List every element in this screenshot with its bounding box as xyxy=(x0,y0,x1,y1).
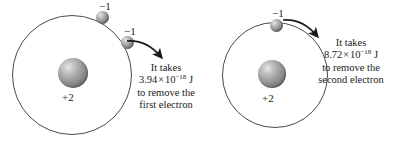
caption-left-times: × xyxy=(157,74,165,85)
caption-right-line-2: 8.72×10−18 J xyxy=(305,49,397,61)
caption-left-exponent: −18 xyxy=(175,73,186,81)
caption-right-times: × xyxy=(342,49,350,60)
caption-right-line-4: second electron xyxy=(305,74,397,86)
electron-sphere-left-1 xyxy=(96,11,109,24)
electron-charge-label-left-1: −1 xyxy=(99,1,111,12)
nucleus-charge-label-left: +2 xyxy=(62,92,74,103)
caption-right-exponent: −18 xyxy=(360,48,371,56)
caption-left: It takes 3.94×10−18 J to remove the firs… xyxy=(131,62,201,112)
caption-right: It takes 8.72×10−18 J to remove the seco… xyxy=(305,37,397,87)
nucleus-sphere-left xyxy=(58,58,88,88)
caption-left-base: 10 xyxy=(165,74,176,85)
nucleus-charge-label-right: +2 xyxy=(262,93,274,104)
electron-charge-label-left-2: −1 xyxy=(124,26,136,37)
caption-right-value: 8.72 xyxy=(324,49,342,60)
caption-right-base: 10 xyxy=(350,49,361,60)
caption-left-value: 3.94 xyxy=(139,74,157,85)
caption-left-line-1: It takes xyxy=(131,62,201,74)
caption-left-line-3: to remove the xyxy=(131,87,201,99)
caption-right-line-1: It takes xyxy=(305,37,397,49)
ionization-energy-figure: +2 −1 −1 It takes 3.94×10−18 J to remove… xyxy=(0,0,397,149)
caption-left-unit: J xyxy=(189,74,193,85)
caption-right-unit: J xyxy=(374,49,378,60)
caption-right-line-3: to remove the xyxy=(305,62,397,74)
caption-left-line-2: 3.94×10−18 J xyxy=(131,74,201,86)
nucleus-sphere-right xyxy=(258,60,286,88)
caption-left-line-4: first electron xyxy=(131,99,201,111)
